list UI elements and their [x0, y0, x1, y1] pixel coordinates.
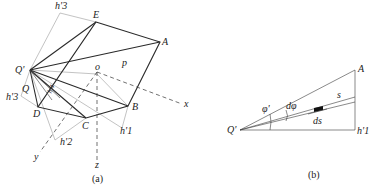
projection-line-h1	[30, 70, 128, 128]
label-p: p	[121, 57, 127, 68]
ray-s-upper	[240, 97, 355, 130]
phi-arc	[270, 114, 271, 130]
label-x: x	[183, 98, 189, 109]
label-o: o	[95, 61, 100, 72]
label-y: y	[33, 151, 39, 162]
label-h2: h'2	[60, 136, 72, 147]
label-E: E	[92, 9, 99, 20]
label-h1-b: h'1	[357, 125, 369, 136]
label-dphi: dφ	[286, 100, 297, 111]
projection-line-o-B	[97, 74, 128, 106]
ray-Q-inner-1	[30, 70, 60, 98]
caption-a: (a)	[92, 173, 103, 185]
label-Q: Q	[22, 83, 30, 94]
label-phi: φ'	[262, 103, 271, 114]
caption-b: (b)	[308, 169, 320, 181]
dphi-arc	[286, 110, 288, 121]
triangle-QAh1	[240, 70, 355, 130]
projection-line-h3-Q	[30, 13, 60, 70]
label-z: z	[94, 159, 99, 170]
label-s: s	[337, 89, 341, 100]
label-Q-prime: Q'	[15, 64, 25, 75]
label-C: C	[82, 120, 89, 131]
label-A-b: A	[357, 63, 365, 74]
panel-b: Q' A h'1 φ' dφ s ds (b)	[227, 63, 369, 181]
projection-line-h3-E	[60, 13, 96, 22]
label-h3-top: h'3	[55, 0, 67, 11]
ray-s-lower	[240, 102, 355, 130]
label-h3-left: h'3	[6, 91, 18, 102]
label-D: D	[32, 108, 41, 119]
label-ds: ds	[313, 115, 322, 126]
figure-canvas: h'3 E A Q' p o Q h'3 h'4 D B C h'1 h'2 x…	[0, 0, 374, 189]
label-h1: h'1	[120, 125, 132, 136]
label-Q-prime-b: Q'	[227, 124, 237, 135]
label-A: A	[161, 36, 169, 47]
panel-a: h'3 E A Q' p o Q h'3 h'4 D B C h'1 h'2 x…	[6, 0, 189, 185]
label-B: B	[132, 101, 138, 112]
